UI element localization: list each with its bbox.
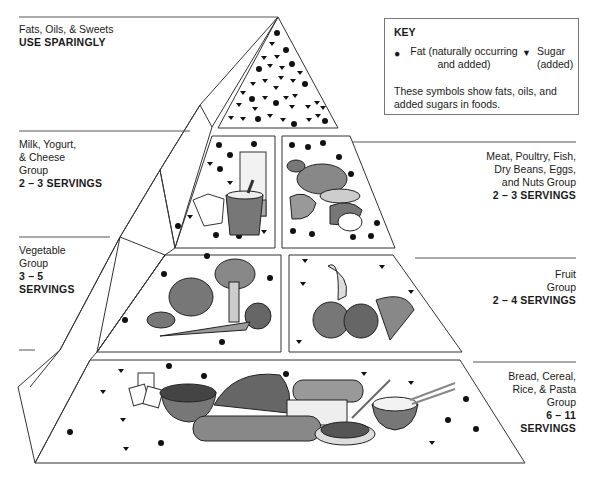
group-name-line: Rice, & Pasta xyxy=(508,383,576,396)
label-fats-oils-sweets: Fats, Oils, & Sweets USE SPARINGLY xyxy=(19,23,114,49)
group-name-line: & Cheese xyxy=(19,151,102,164)
group-name: Fats, Oils, & Sweets xyxy=(19,23,114,36)
sugar-label-line: (added) xyxy=(537,58,573,71)
servings: 6 – 11 xyxy=(508,409,576,422)
key-title: KEY xyxy=(394,26,416,39)
fat-label: Fat (naturally occurring and added) xyxy=(409,45,519,71)
servings: 3 – 5 xyxy=(19,270,75,283)
servings: SERVINGS xyxy=(508,422,576,435)
key-legend: KEY ● Fat (naturally occurring and added… xyxy=(384,18,579,115)
sugar-icon: ▼ xyxy=(522,47,531,60)
milk-foods-illustration xyxy=(193,152,266,235)
sugar-label: Sugar (added) xyxy=(537,45,573,71)
fruit-section xyxy=(289,255,462,352)
group-name-line: Group xyxy=(508,396,576,409)
fat-icon: ● xyxy=(394,47,400,60)
fat-label-line: Fat (naturally occurring xyxy=(409,45,519,58)
group-name-line: Meat, Poultry, Fish, xyxy=(486,150,576,163)
servings: 2 – 3 SERVINGS xyxy=(486,189,576,202)
group-name-line: Bread, Cereal, xyxy=(508,370,576,383)
fruit-foods-illustration xyxy=(313,265,414,340)
group-name-line: Group xyxy=(493,281,576,294)
group-name-line: Fruit xyxy=(493,268,576,281)
group-name-line: Vegetable xyxy=(19,244,75,257)
vegetable-foods-illustration xyxy=(147,259,271,336)
label-milk-group: Milk, Yogurt, & Cheese Group 2 – 3 SERVI… xyxy=(19,138,102,190)
fat-label-line: and added) xyxy=(409,58,519,71)
meat-foods-illustration xyxy=(287,160,362,231)
label-bread-group: Bread, Cereal, Rice, & Pasta Group 6 – 1… xyxy=(508,370,576,435)
group-name-line: Group xyxy=(19,257,75,270)
group-name-line: Group xyxy=(19,164,102,177)
sugar-label-line: Sugar xyxy=(537,45,573,58)
label-vegetable-group: Vegetable Group 3 – 5 SERVINGS xyxy=(19,244,75,296)
label-meat-group: Meat, Poultry, Fish, Dry Beans, Eggs, an… xyxy=(486,150,576,202)
servings: SERVINGS xyxy=(19,283,75,296)
group-name-line: Dry Beans, Eggs, xyxy=(486,163,576,176)
servings: 2 – 3 SERVINGS xyxy=(19,177,102,190)
label-fruit-group: Fruit Group 2 – 4 SERVINGS xyxy=(493,268,576,307)
group-name-line: Milk, Yogurt, xyxy=(19,138,102,151)
group-name-line: and Nuts Group xyxy=(486,176,576,189)
key-note-line: added sugars in foods. xyxy=(394,98,574,111)
servings: USE SPARINGLY xyxy=(19,36,114,49)
bread-foods-illustration xyxy=(129,373,455,445)
key-note: These symbols show fats, oils, and added… xyxy=(394,85,574,111)
key-note-line: These symbols show fats, oils, and xyxy=(394,85,574,98)
servings: 2 – 4 SERVINGS xyxy=(493,294,576,307)
